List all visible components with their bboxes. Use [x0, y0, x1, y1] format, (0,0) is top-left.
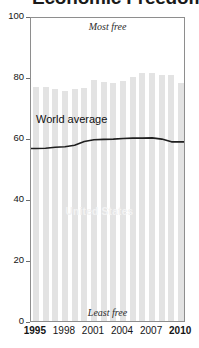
x-tick-label-2001: 2001 — [82, 325, 104, 336]
y-tick-label-20: 20 — [13, 255, 24, 265]
x-tick-label-2004: 2004 — [111, 325, 133, 336]
y-tick-label-60: 60 — [13, 133, 24, 143]
x-axis: 199519982001200420072010 — [30, 325, 185, 345]
x-tick-label-1998: 1998 — [53, 325, 75, 336]
page-title: Economic Freedom Index — [32, 0, 199, 9]
world-average-line — [31, 138, 185, 149]
plot-area: Most free Least free — [30, 17, 185, 322]
annotation-least-free: Least free — [88, 307, 127, 318]
y-tick-mark — [26, 322, 30, 323]
world-average-label: World average — [36, 113, 107, 125]
x-tick-label-1995: 1995 — [24, 325, 46, 336]
y-tick-label-40: 40 — [13, 194, 24, 204]
economic-freedom-chart: Economic Freedom Index 100 80 60 40 20 0 — [0, 0, 199, 348]
annotation-most-free: Most free — [89, 21, 127, 32]
y-axis: 100 80 60 40 20 0 — [0, 0, 30, 348]
x-tick-label-2010: 2010 — [169, 325, 191, 336]
y-tick-label-100: 100 — [8, 11, 24, 21]
y-tick-label-80: 80 — [13, 72, 24, 82]
x-tick-label-2007: 2007 — [140, 325, 162, 336]
line-series-world-average — [31, 18, 185, 322]
united-states-label: United States — [66, 206, 134, 217]
